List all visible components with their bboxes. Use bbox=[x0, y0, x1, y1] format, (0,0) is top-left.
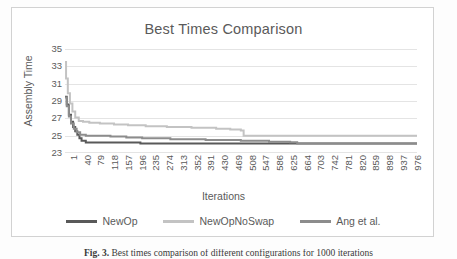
legend-item[interactable]: Ang et al. bbox=[300, 215, 380, 227]
x-tick-label: 79 bbox=[96, 155, 106, 166]
x-axis-title: Iterations bbox=[12, 190, 435, 202]
chart-frame: Best Times Comparison Assembly Time 2325… bbox=[11, 7, 434, 237]
y-tick-label: 33 bbox=[51, 62, 62, 72]
plot-lines bbox=[65, 49, 417, 153]
x-tick-label: 118 bbox=[110, 155, 120, 170]
legend-item[interactable]: NewOpNoSwap bbox=[163, 215, 274, 227]
y-tick-label: 31 bbox=[51, 79, 62, 89]
x-tick-label: 976 bbox=[413, 155, 423, 171]
figure-caption-label: Fig. 3. bbox=[84, 249, 109, 258]
series-line bbox=[65, 62, 417, 136]
legend-label: NewOp bbox=[102, 215, 137, 227]
legend-swatch bbox=[163, 220, 194, 223]
plot-area bbox=[65, 49, 417, 153]
x-tick-label: 820 bbox=[358, 155, 368, 171]
x-tick-label: 157 bbox=[124, 155, 134, 171]
legend-swatch bbox=[66, 220, 97, 223]
y-axis-title: Assembly Time bbox=[22, 46, 34, 136]
y-tick-label: 23 bbox=[51, 148, 62, 158]
x-tick-label: 352 bbox=[193, 155, 203, 171]
x-tick-label: 664 bbox=[303, 155, 313, 171]
figure-caption-body: Best times comparison of different confi… bbox=[109, 249, 373, 258]
legend-label: Ang et al. bbox=[336, 215, 380, 227]
chart-title: Best Times Comparison bbox=[12, 21, 435, 37]
y-axis-tick-labels: 23252729313335 bbox=[44, 49, 62, 153]
x-tick-label: 781 bbox=[344, 155, 354, 171]
legend-swatch bbox=[300, 220, 331, 223]
x-axis-tick-labels: 1407911815719623527431335239143046950854… bbox=[65, 155, 417, 189]
x-tick-label: 235 bbox=[151, 155, 161, 171]
figure-caption-text: Fig. 3. Best times comparison of differe… bbox=[11, 249, 446, 259]
x-tick-label: 469 bbox=[234, 155, 244, 171]
x-tick-label: 274 bbox=[165, 155, 175, 171]
x-tick-label: 586 bbox=[275, 155, 285, 171]
figure-caption: Fig. 3. Best times comparison of differe… bbox=[11, 249, 446, 259]
legend-item[interactable]: NewOp bbox=[66, 215, 137, 227]
x-tick-label: 742 bbox=[330, 155, 340, 171]
x-tick-label: 430 bbox=[220, 155, 230, 171]
x-tick-label: 40 bbox=[83, 155, 93, 166]
y-tick-label: 29 bbox=[51, 96, 62, 106]
y-tick-label: 25 bbox=[51, 131, 62, 141]
x-tick-label: 625 bbox=[289, 155, 299, 171]
x-tick-label: 703 bbox=[316, 155, 326, 171]
x-tick-label: 898 bbox=[385, 155, 395, 171]
chart-legend: NewOpNewOpNoSwapAng et al. bbox=[12, 215, 435, 227]
y-tick-label: 35 bbox=[51, 44, 62, 54]
x-tick-label: 508 bbox=[248, 155, 258, 171]
x-tick-label: 313 bbox=[179, 155, 189, 171]
figure-container: Best Times Comparison Assembly Time 2325… bbox=[0, 0, 457, 259]
y-tick-label: 27 bbox=[51, 114, 62, 124]
x-tick-label: 547 bbox=[261, 155, 271, 171]
x-tick-label: 859 bbox=[371, 155, 381, 171]
x-tick-label: 1 bbox=[69, 155, 79, 160]
x-tick-label: 937 bbox=[399, 155, 409, 171]
x-tick-label: 196 bbox=[138, 155, 148, 171]
legend-label: NewOpNoSwap bbox=[199, 215, 274, 227]
x-tick-label: 391 bbox=[206, 155, 216, 171]
